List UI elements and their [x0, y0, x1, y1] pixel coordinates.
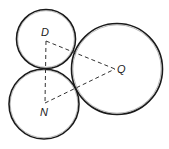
- circle-d: [17, 10, 76, 69]
- segment-dq: [46, 41, 115, 69]
- label-q: Q: [117, 63, 126, 75]
- segment-dn: [45, 41, 46, 103]
- segment-nq: [45, 69, 115, 103]
- three-tangent-circles-diagram: D N Q: [0, 0, 169, 149]
- circle-n: [9, 69, 79, 139]
- label-d: D: [41, 26, 49, 38]
- label-n: N: [40, 106, 48, 118]
